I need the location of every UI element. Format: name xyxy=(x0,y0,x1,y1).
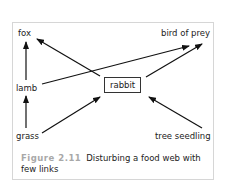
arrow-rabbit-to-fox xyxy=(37,39,100,76)
node-grass: grass xyxy=(16,131,39,141)
figure-number: Figure 2.11 xyxy=(21,153,81,163)
figure-caption: Figure 2.11Disturbing a food web with fe… xyxy=(21,153,211,175)
arrow-grass-to-rabbit xyxy=(42,97,100,133)
node-lamb: lamb xyxy=(16,83,37,93)
node-tree-seedling: tree seedling xyxy=(155,131,211,141)
node-rabbit: rabbit xyxy=(104,77,141,93)
arrow-rabbit-to-bird-of-prey xyxy=(146,44,202,77)
node-bird-of-prey: bird of prey xyxy=(161,28,210,38)
arrow-tree-seedling-to-rabbit xyxy=(149,97,202,128)
node-fox: fox xyxy=(18,28,31,38)
